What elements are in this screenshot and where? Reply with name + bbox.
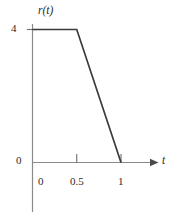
y-tick-label-0: 0 [16, 155, 22, 166]
x-tick-label-0: 0 [38, 176, 44, 187]
plot-canvas [0, 0, 173, 219]
x-tick-label-1: 1 [118, 176, 124, 187]
x-tick-label-0point5: 0.5 [70, 176, 84, 187]
x-axis-label: t [162, 155, 165, 167]
y-axis-label: r(t) [38, 5, 53, 17]
chart-figure: r(t) t 4 0 0 0.5 1 [0, 0, 173, 219]
rate-curve [33, 30, 122, 163]
y-tick-label-4: 4 [11, 23, 17, 34]
x-axis-arrow-icon [150, 159, 159, 166]
